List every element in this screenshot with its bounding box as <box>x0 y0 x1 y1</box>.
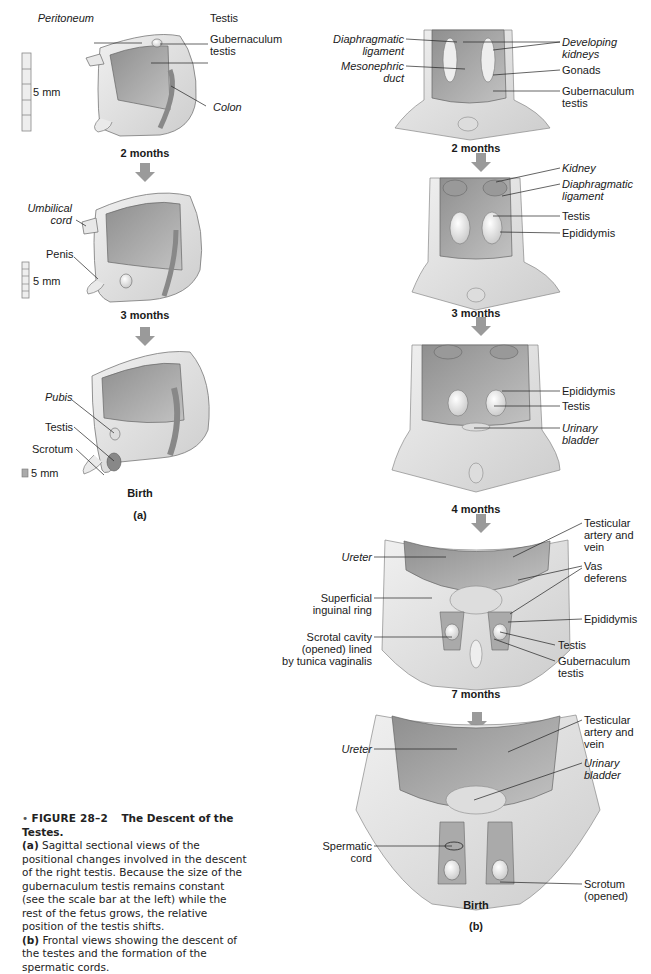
caption-tag-a: (a) <box>22 839 39 851</box>
label-developing-kidneys: Developing kidneys <box>562 36 617 60</box>
label-gubernaculum-testis: Gubernaculum testis <box>210 33 282 57</box>
stage-label-2-months: 2 months <box>436 142 516 154</box>
caption-heading: • FIGURE 28–2 The Descent of the Testes. <box>22 812 247 839</box>
frontal-view-3-months <box>412 178 560 310</box>
label-testicular-artery-and-vein: Testicular artery and vein <box>584 714 634 750</box>
arrow-down-icon <box>471 514 491 533</box>
label-superficial-inguinal-ring: Superficial inguinal ring <box>290 592 372 616</box>
panel-label-a: (a) <box>125 509 155 521</box>
label-spermatic-cord: Spermatic cord <box>310 840 372 864</box>
frontal-view-7-months <box>382 540 570 690</box>
stage-label-3-months: 3 months <box>100 309 190 321</box>
label-ureter: Ureter <box>300 743 372 755</box>
label-mesonephric-duct: Mesonephric duct <box>320 60 404 84</box>
label-epididymis: Epididymis <box>562 385 615 397</box>
stage-label-birth: Birth <box>446 899 506 911</box>
frontal-view-2-months <box>395 30 550 140</box>
label-umbilical-cord: Umbilical cord <box>12 202 72 226</box>
stage-label-3-months: 3 months <box>436 307 516 319</box>
stage-label-2-months: 2 months <box>100 147 190 159</box>
label-ureter: Ureter <box>300 551 372 563</box>
scale-bar-icon <box>22 262 29 298</box>
label-scrotal-cavity: Scrotal cavity (opened) lined by tunica … <box>270 631 372 667</box>
arrow-down-icon <box>135 163 155 182</box>
arrow-down-icon <box>471 153 491 172</box>
label-kidney: Kidney <box>562 162 596 174</box>
label-gubernaculum-testis: Gubernaculum testis <box>558 655 630 679</box>
label-colon: Colon <box>213 101 242 113</box>
label-epididymis: Epididymis <box>562 227 615 239</box>
frontal-view-birth <box>356 715 600 910</box>
label-gonads: Gonads <box>562 64 601 76</box>
label-gubernaculum-testis: Gubernaculum testis <box>562 85 634 109</box>
label-peritoneum: Peritoneum <box>18 12 94 24</box>
label-urinary-bladder: Urinary bladder <box>584 757 621 781</box>
sagittal-view-2-months <box>86 35 196 137</box>
label-testicular-artery-and-vein: Testicular artery and vein <box>584 517 634 553</box>
label-testis: Testis <box>558 639 586 651</box>
label-testis: Testis <box>45 421 73 433</box>
label-diaphragmatic-ligament: Diaphragmatic ligament <box>562 178 633 202</box>
caption-text-a: Sagittal sectional views of the position… <box>22 839 247 932</box>
stage-label-4-months: 4 months <box>436 503 516 515</box>
scale-label: 5 mm <box>33 275 61 287</box>
arrow-down-icon <box>471 317 491 336</box>
label-epididymis: Epididymis <box>584 613 637 625</box>
frontal-view-4-months <box>392 345 560 492</box>
caption-tag-b: (b) <box>22 934 39 946</box>
stage-label-birth: Birth <box>110 487 170 499</box>
label-pubis: Pubis <box>45 391 73 403</box>
figure-number: FIGURE 28–2 <box>32 812 109 824</box>
caption-part-a: (a) Sagittal sectional views of the posi… <box>22 839 247 934</box>
arrow-down-icon <box>135 327 155 346</box>
label-diaphragmatic-ligament: Diaphragmatic ligament <box>320 33 404 57</box>
sagittal-view-3-months <box>82 193 202 302</box>
label-testis: Testis <box>562 400 590 412</box>
caption-text-b: Frontal views showing the descent of the… <box>22 934 237 973</box>
panel-label-b: (b) <box>461 920 491 932</box>
label-testis: Testis <box>210 12 238 24</box>
label-vas-deferens: Vas deferens <box>584 560 627 584</box>
label-scrotum: Scrotum <box>32 443 73 455</box>
label-testis: Testis <box>562 210 590 222</box>
scale-bar-icon <box>22 469 28 477</box>
caption-part-b: (b) Frontal views showing the descent of… <box>22 934 247 974</box>
scale-label: 5 mm <box>33 86 61 98</box>
label-urinary-bladder: Urinary bladder <box>562 422 599 446</box>
figure-caption: • FIGURE 28–2 The Descent of the Testes.… <box>22 812 247 974</box>
label-penis: Penis <box>46 248 74 260</box>
sagittal-view-birth <box>83 352 209 475</box>
bullet-icon: • <box>22 812 28 824</box>
label-scrotum-opened: Scrotum (opened) <box>584 878 628 902</box>
scale-label: 5 mm <box>31 467 59 479</box>
scale-bar-icon <box>22 53 31 131</box>
stage-label-7-months: 7 months <box>436 688 516 700</box>
